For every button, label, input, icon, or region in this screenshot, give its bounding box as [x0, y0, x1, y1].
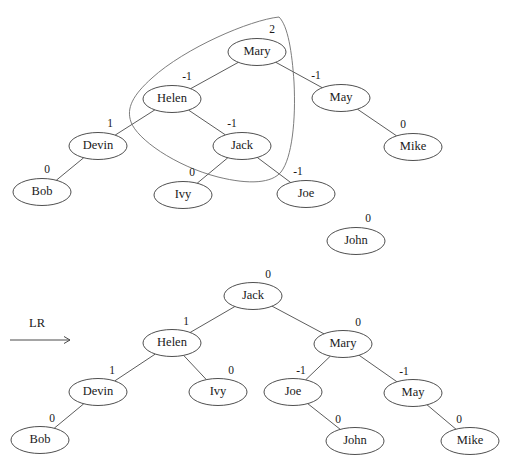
node-label: Mary	[329, 336, 357, 350]
node-label: Bob	[32, 184, 53, 198]
tree-node[interactable]: Mike	[441, 428, 499, 455]
tree-edge	[191, 62, 239, 88]
node-label: John	[344, 233, 368, 247]
balance-factor-label: 0	[44, 163, 50, 175]
node-label: Joe	[298, 186, 315, 200]
node-label: Ivy	[210, 384, 227, 398]
tree-edge	[306, 356, 331, 380]
balance-factor-label: 0	[189, 166, 195, 178]
tree-node[interactable]: Mary	[314, 331, 372, 358]
tree-edge	[197, 158, 228, 183]
before-tree-nodes: MaryHelenMayDevinJackMikeBobIvyJoeJohn	[13, 39, 442, 255]
balance-factor-label: 0	[355, 316, 361, 328]
tree-edge	[357, 109, 396, 136]
tree-node[interactable]: Ivy	[189, 379, 247, 406]
balance-factor-label: -1	[293, 165, 303, 177]
after-tree-nodes: JackHelenMaryDevinIvyJoeMayBobJohnMike	[11, 283, 499, 455]
tree-edge	[115, 354, 156, 381]
tree-node[interactable]: Joe	[277, 181, 335, 208]
balance-factor-label: 0	[400, 118, 406, 130]
tree-node[interactable]: Helen	[143, 330, 201, 357]
tree-node[interactable]: Devin	[69, 133, 127, 160]
tree-node[interactable]: May	[312, 85, 370, 112]
tree-edge	[427, 405, 456, 429]
node-label: Bob	[30, 432, 51, 446]
node-label: Jack	[242, 288, 265, 302]
balance-factor-label: -1	[182, 70, 192, 82]
tree-edge	[257, 157, 290, 182]
tree-node[interactable]: Mike	[384, 134, 442, 161]
balance-factor-label: 1	[183, 315, 189, 327]
balance-factor-label: -1	[227, 117, 237, 129]
tree-node[interactable]: Mary	[228, 39, 286, 66]
tree-edge	[184, 355, 207, 379]
node-label: May	[330, 90, 354, 104]
balance-factor-label: 1	[109, 364, 115, 376]
tree-node[interactable]: Ivy	[154, 182, 212, 209]
tree-edge	[54, 404, 84, 428]
tree-node[interactable]: Jack	[224, 283, 282, 310]
balance-factor-label: -1	[296, 364, 306, 376]
tree-node[interactable]: May	[384, 380, 442, 407]
balance-factor-label: -1	[311, 69, 321, 81]
balance-factor-label: 0	[365, 212, 371, 224]
tree-edge	[189, 110, 226, 135]
node-label: Devin	[83, 384, 114, 398]
tree-node[interactable]: John	[327, 228, 385, 255]
balance-factor-label: 0	[456, 413, 462, 425]
diagram-canvas: MaryHelenMayDevinJackMikeBobIvyJoeJohn 2…	[0, 0, 514, 473]
tree-edge	[56, 158, 83, 181]
node-label: Jack	[231, 138, 254, 152]
balance-factor-label: 0	[49, 412, 55, 424]
node-label: Mary	[243, 44, 271, 58]
tree-edge	[272, 306, 324, 334]
tree-edge	[115, 110, 155, 135]
tree-node[interactable]: Jack	[213, 133, 271, 160]
balance-factor-label: 0	[228, 364, 234, 376]
node-label: Joe	[285, 384, 302, 398]
node-label: Devin	[83, 138, 114, 152]
tree-node[interactable]: Bob	[11, 427, 69, 454]
balance-factor-label: 2	[269, 23, 275, 35]
balance-factor-label: -1	[399, 365, 409, 377]
balance-factor-label: 0	[335, 413, 341, 425]
node-label: Mike	[457, 433, 484, 447]
rotation-operation: LR	[10, 316, 70, 344]
balance-factor-label: 0	[265, 268, 271, 280]
rotation-operation-label: LR	[29, 316, 46, 330]
node-label: John	[343, 433, 367, 447]
node-label: Mike	[400, 139, 427, 153]
before-tree-balance-factors: 2-1-11-1000-10	[44, 23, 406, 224]
avl-rotation-diagram: MaryHelenMayDevinJackMikeBobIvyJoeJohn 2…	[0, 0, 514, 473]
tree-node[interactable]: Bob	[13, 179, 71, 206]
tree-node[interactable]: Devin	[69, 379, 127, 406]
node-label: May	[402, 385, 426, 399]
node-label: Ivy	[175, 187, 192, 201]
tree-edge	[190, 307, 235, 333]
tree-edge	[359, 355, 397, 382]
tree-node[interactable]: Helen	[143, 86, 201, 113]
node-label: Helen	[157, 335, 188, 349]
balance-factor-label: 1	[107, 117, 113, 129]
tree-node[interactable]: John	[326, 428, 384, 455]
tree-node[interactable]: Joe	[264, 379, 322, 406]
node-label: Helen	[157, 91, 188, 105]
